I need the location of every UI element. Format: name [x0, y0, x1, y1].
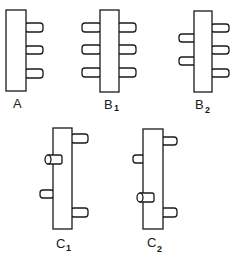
peg-front-1: [45, 155, 62, 164]
panel-label: A: [13, 96, 22, 111]
peg-right-2: [117, 45, 136, 54]
peg-right-3: [25, 69, 43, 78]
peg-right-2: [25, 46, 43, 54]
peg-right-3: [211, 69, 229, 77]
peg-right-1: [117, 23, 136, 32]
peg-right-1: [211, 24, 229, 32]
peg-left-2: [82, 45, 101, 54]
peg-right-2: [211, 46, 229, 54]
peg-left-1: [40, 190, 54, 198]
peg-left-1: [82, 23, 101, 32]
peg-diagram: A B 1 B 2: [0, 0, 235, 256]
bar: [53, 128, 72, 229]
peg-right-1: [25, 23, 43, 32]
panel-a: A: [6, 10, 43, 111]
peg-right-1: [71, 134, 88, 143]
panel-b2: B 2: [179, 11, 229, 115]
bar: [100, 10, 119, 92]
panel-c1: C 1: [40, 128, 88, 253]
bar: [6, 10, 26, 91]
panel-label: B 2: [195, 95, 210, 115]
panel-label: B 1: [104, 95, 119, 113]
panel-label: C 1: [56, 234, 71, 253]
panel-label: C 2: [147, 233, 162, 254]
peg-right-2: [71, 208, 88, 217]
peg-left-3: [82, 68, 101, 77]
peg-right-3: [117, 68, 136, 77]
panel-c2: C 2: [133, 129, 177, 254]
panel-b1: B 1: [82, 10, 136, 113]
bar: [194, 11, 212, 92]
peg-front-1: [137, 193, 154, 202]
bar: [143, 129, 163, 229]
